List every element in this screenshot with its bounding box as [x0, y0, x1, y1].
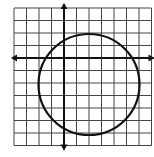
- grid-lines: [14, 8, 152, 146]
- coordinate-graph: [0, 0, 154, 157]
- y-axis-down-arrow-icon: [61, 145, 68, 151]
- y-axis-up-arrow-icon: [61, 3, 68, 9]
- axes: [11, 3, 154, 151]
